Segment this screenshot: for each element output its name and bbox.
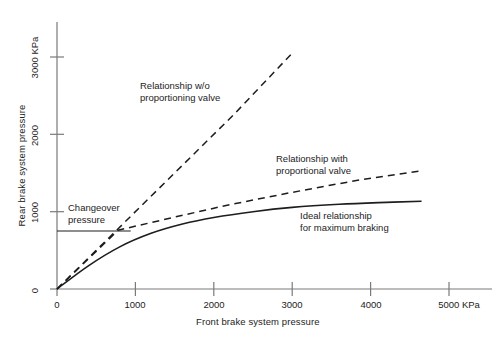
x-tick-label-2000: 2000 [203,299,224,310]
y-tick-label-3000: 3000 KPa [29,28,40,88]
y-tick-label-1000: 1000 [29,195,40,231]
x-axis-title: Front brake system pressure [196,316,320,327]
x-tick-label-0: 0 [54,299,59,310]
x-tick-label-5000: 5000 KPa [438,299,480,310]
y-axis-title: Rear brake system pressure [16,101,27,231]
brake-pressure-chart: Front brake system pressure Rear brake s… [0,0,502,342]
annotation-ideal-relationship: Ideal relationship for maximum braking [300,210,389,233]
chart-plot-area [0,0,502,342]
x-tick-label-4000: 4000 [360,299,381,310]
annotation-changeover-pressure: Changeover pressure [68,202,120,225]
annotation-no-proportioning-valve: Relationship w/o proportioning valve [140,80,220,103]
x-tick-label-1000: 1000 [124,299,145,310]
y-tick-label-2000: 2000 [29,118,40,154]
y-tick-label-0: 0 [29,276,40,306]
x-tick-label-3000: 3000 [281,299,302,310]
annotation-with-proportional-valve: Relationship with proportional valve [276,153,351,176]
